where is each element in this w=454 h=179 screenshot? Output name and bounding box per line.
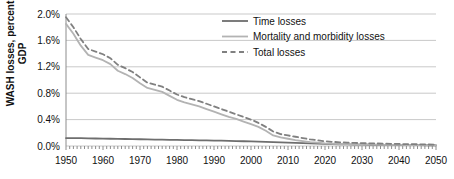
x-tick-label: 2050 <box>425 155 448 166</box>
legend-label: Mortality and morbidity losses <box>253 31 385 42</box>
y-tick-label: 0.4% <box>37 114 60 125</box>
x-tick-label: 1950 <box>55 155 78 166</box>
x-tick-label: 1970 <box>129 155 152 166</box>
x-axis-minor-ticks <box>66 146 436 150</box>
x-tick-label: 2040 <box>388 155 411 166</box>
x-tick-label: 2000 <box>240 155 263 166</box>
chart-legend: Time lossesMortality and morbidity losse… <box>222 16 385 58</box>
x-tick-label: 1980 <box>166 155 189 166</box>
x-tick-label: 1990 <box>203 155 226 166</box>
chart-plot-area: 0.0%0.4%0.8%1.2%1.6%2.0% 195019601970198… <box>0 0 454 179</box>
y-tick-labels: 0.0%0.4%0.8%1.2%1.6%2.0% <box>37 9 60 152</box>
x-tick-labels: 1950196019701980199020002010202020302040… <box>55 155 448 166</box>
legend-label: Time losses <box>253 16 306 27</box>
legend-label: Total losses <box>253 47 305 58</box>
y-tick-label: 2.0% <box>37 9 60 20</box>
x-tick-label: 2030 <box>351 155 374 166</box>
x-tick-label: 2010 <box>277 155 300 166</box>
wash-losses-line-chart: WASH losses, percent GDP 0.0%0.4%0.8%1.2… <box>0 0 454 179</box>
y-tick-label: 0.0% <box>37 141 60 152</box>
x-tick-label: 2020 <box>314 155 337 166</box>
y-tick-label: 1.2% <box>37 61 60 72</box>
y-tick-label: 1.6% <box>37 35 60 46</box>
y-tick-label: 0.8% <box>37 88 60 99</box>
x-tick-label: 1960 <box>92 155 115 166</box>
